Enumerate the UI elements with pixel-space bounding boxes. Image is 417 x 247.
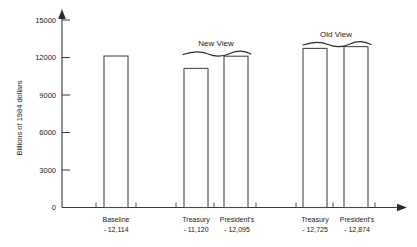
category-label-old-presidents: President's: [340, 216, 375, 223]
y-tick-label-3000: 3000: [39, 166, 56, 175]
bars-group: [104, 47, 368, 208]
y-tick-label-9000: 9000: [39, 91, 56, 100]
group-label-old-view: Old View: [320, 30, 352, 39]
bar-old-presidents: [344, 47, 368, 208]
y-tick-label-0: 0: [52, 203, 56, 212]
category-value-baseline: - 12,114: [103, 226, 128, 233]
y-tick-label-6000: 6000: [39, 128, 56, 137]
group-label-new-view: New View: [198, 39, 234, 48]
y-axis-ticks-group: 0 3000 6000 9000 12000 15000: [35, 16, 70, 213]
category-labels-group: Baseline - 12,114 Treasury - 11,120 Pres…: [103, 216, 375, 233]
category-label-new-treasury: Treasury: [182, 216, 210, 224]
category-value-old-presidents: - 12,874: [344, 226, 370, 233]
y-tick-label-12000: 12000: [35, 53, 56, 62]
category-value-old-treasury: - 12,725: [302, 226, 328, 233]
x-axis-arrow-icon: [397, 204, 407, 212]
group-annotations: New View Old View: [183, 30, 371, 56]
category-label-new-presidents: President's: [220, 216, 255, 223]
bar-old-treasury: [303, 48, 327, 207]
category-value-new-treasury: - 11,120: [183, 226, 208, 233]
category-label-old-treasury: Treasury: [301, 216, 329, 224]
bar-chart-figure: Billions of 1984 dollars 0 3000 6000 900…: [0, 0, 417, 247]
y-tick-label-15000: 15000: [35, 16, 56, 25]
bar-new-presidents: [224, 56, 248, 207]
y-axis-title: Billions of 1984 dollars: [15, 80, 24, 155]
category-value-new-presidents: - 12,095: [224, 226, 250, 233]
group-brace-new-view: [183, 51, 251, 56]
bar-baseline: [104, 56, 128, 208]
y-axis-arrow-icon: [58, 9, 66, 19]
chart-canvas: Billions of 1984 dollars 0 3000 6000 900…: [0, 0, 417, 247]
y-axis-title-group: Billions of 1984 dollars: [15, 80, 24, 155]
bar-new-treasury: [184, 68, 208, 207]
group-brace-old-view: [303, 42, 371, 47]
category-label-baseline: Baseline: [103, 216, 130, 223]
